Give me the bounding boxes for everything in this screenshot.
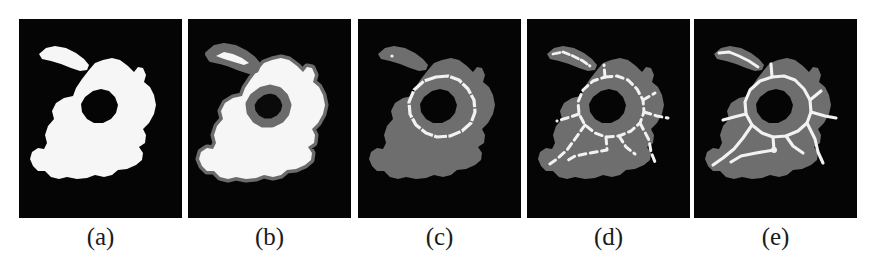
- panel-image-c: [358, 19, 521, 218]
- figure-container: (a) (b): [0, 0, 877, 265]
- caption-c: (c): [358, 222, 521, 252]
- caption-e: (e): [694, 222, 857, 252]
- panel-image-d: [527, 19, 690, 218]
- small-ellipse-b: [208, 46, 258, 71]
- shape-a-white-fill: [30, 46, 156, 179]
- panel-e-graphic: [694, 19, 857, 218]
- panel-a-graphic: [19, 19, 182, 218]
- panel-d-graphic: [527, 19, 690, 218]
- panel-c-graphic: [358, 19, 521, 218]
- panel-image-b: [188, 19, 351, 218]
- panel-image-e: [694, 19, 857, 218]
- panel-b-graphic: [188, 19, 351, 218]
- panel-image-a: [19, 19, 182, 218]
- caption-a: (a): [19, 222, 182, 252]
- caption-b: (b): [188, 222, 351, 252]
- caption-d: (d): [527, 222, 690, 252]
- shape-b-white-core: [199, 58, 325, 179]
